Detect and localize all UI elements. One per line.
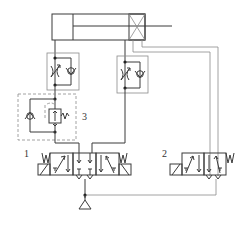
throttle-check-valve-2 — [117, 56, 148, 93]
label-valve-2: 2 — [162, 148, 167, 159]
label-component-3: 3 — [82, 111, 87, 122]
hydraulic-circuit-diagram: 3 1 — [0, 0, 246, 228]
cylinder — [52, 14, 172, 40]
line-b-to-valve-1 — [92, 88, 125, 153]
label-valve-1: 1 — [24, 148, 29, 159]
throttle-check-valve-1 — [47, 53, 79, 90]
supply-lines — [83, 179, 216, 200]
line-a-to-valve-1 — [55, 132, 79, 153]
pressure-reducing-check-valve-3: 3 — [18, 94, 87, 140]
directional-valve-1: 1 — [24, 148, 131, 179]
directional-valve-2: 2 — [162, 148, 234, 179]
pilot-lines-to-valve-2 — [133, 40, 218, 176]
tank-symbol — [79, 200, 91, 209]
